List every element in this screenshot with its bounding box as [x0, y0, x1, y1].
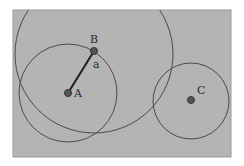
point-label-B: B: [90, 33, 98, 46]
segment-label-a: a: [93, 58, 100, 71]
point-label-A: A: [73, 87, 83, 100]
point-A[interactable]: [65, 90, 72, 97]
point-B[interactable]: [91, 48, 98, 55]
geometry-canvas: aABC: [0, 0, 244, 166]
point-C[interactable]: [188, 97, 195, 104]
point-label-C: C: [197, 84, 205, 97]
